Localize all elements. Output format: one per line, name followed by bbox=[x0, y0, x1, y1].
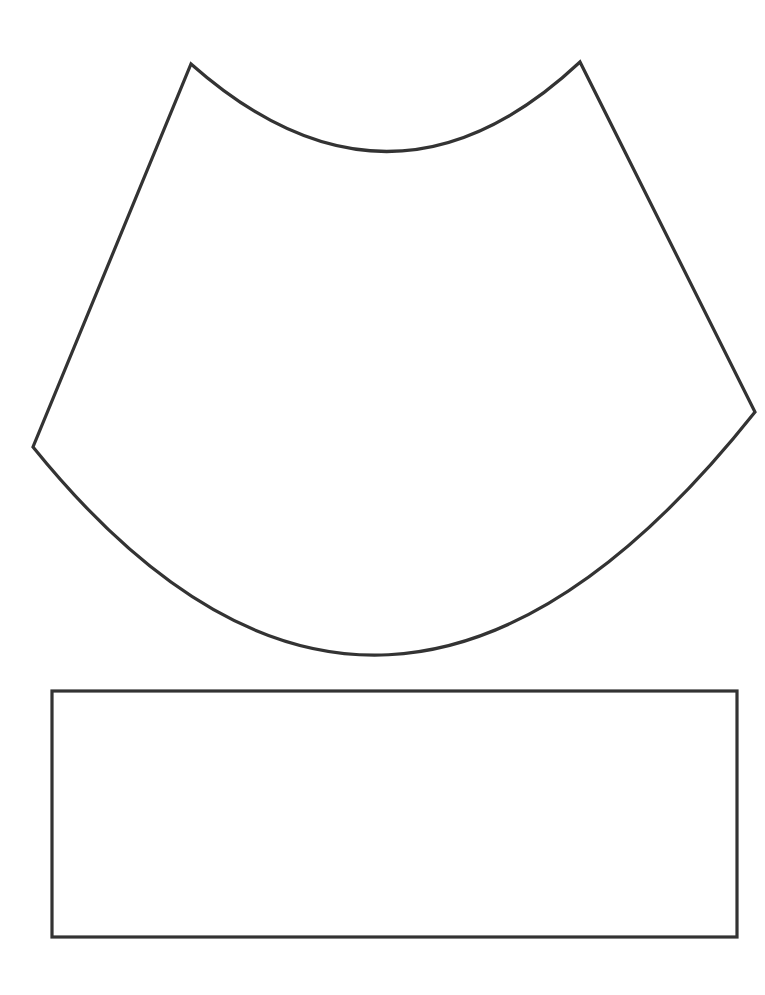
cone-net-shape bbox=[33, 62, 755, 655]
template-canvas bbox=[0, 0, 765, 995]
base-rectangle-shape bbox=[52, 691, 737, 937]
